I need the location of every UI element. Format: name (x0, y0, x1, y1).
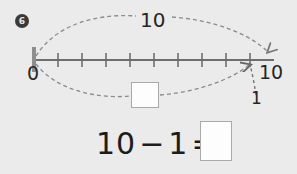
arc-result-jump-right (160, 64, 250, 95)
arc-total-jump-left (36, 16, 136, 56)
total-jump-label: 10 (136, 8, 169, 32)
equation-subtrahend: 1 (168, 126, 188, 161)
worksheet-canvas: 6 (0, 0, 297, 174)
number-line-end-label: 10 (259, 61, 283, 83)
back-jump-label: 1 (251, 88, 262, 108)
answer-box-number-line[interactable] (131, 82, 159, 108)
number-line-start-label: 0 (27, 62, 39, 84)
equation-minus-operator: − (139, 126, 165, 161)
equation-minuend: 10 (96, 126, 136, 161)
arc-total-jump-right (172, 17, 268, 52)
arc-result-jump-left (36, 64, 130, 97)
answer-box-equation[interactable] (200, 121, 232, 161)
